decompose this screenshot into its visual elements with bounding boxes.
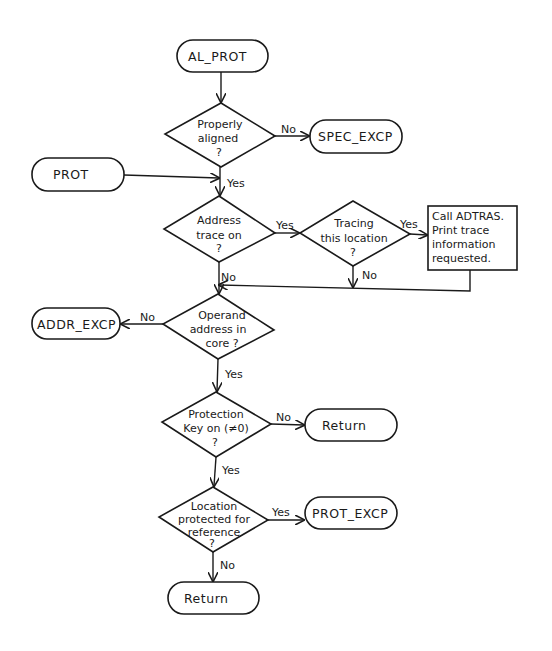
decision-line: ?	[216, 146, 222, 159]
edge-prot-traceon	[124, 175, 219, 178]
terminal-label: SPEC_EXCP	[318, 129, 393, 144]
decision-line: Tracing	[333, 217, 373, 230]
decision-line: Key on (≠0)	[183, 422, 248, 435]
process-line: Print trace	[432, 224, 489, 237]
edge-incore-keyon	[217, 359, 218, 391]
edge-label-traceon-no: No	[221, 271, 236, 284]
process-call-adtras: Call ADTRAS. Print trace information req…	[428, 206, 517, 270]
edge-keyon-protected	[214, 457, 216, 486]
edge-label-incore-no: No	[140, 311, 155, 324]
edge-label-traceon-yes: Yes	[275, 219, 294, 232]
edge-label-keyon-no: No	[276, 411, 291, 424]
edge-label-protected-no: No	[220, 559, 235, 572]
terminal-prot: PROT	[32, 158, 124, 191]
decision-line: address in	[190, 323, 247, 336]
edge-label-keyon-yes: Yes	[221, 464, 240, 477]
decision-line: Properly	[197, 118, 243, 131]
decision-line: trace on	[196, 229, 242, 242]
terminal-al-prot: AL_PROT	[177, 40, 268, 72]
edge-keyon-return	[271, 424, 304, 425]
decision-line: Protection	[188, 408, 244, 421]
edge-adtras-merge	[219, 270, 470, 291]
edge-label-tracingloc-no: No	[362, 269, 377, 282]
terminal-label: PROT_EXCP	[312, 506, 388, 521]
terminal-return-2: Return	[168, 582, 259, 614]
decision-line: ?	[216, 242, 222, 255]
terminal-return-1: Return	[305, 409, 397, 441]
process-line: requested.	[432, 252, 491, 265]
process-line: Call ADTRAS.	[432, 210, 504, 223]
edge-label-aligned-yes: Yes	[226, 177, 245, 190]
decision-properly-aligned: Properly aligned ?	[165, 103, 275, 167]
decision-line: ?	[212, 436, 218, 449]
decision-line: Location	[191, 500, 238, 513]
decision-location-protected: Location protected for reference ?	[159, 487, 268, 552]
decision-line: Address	[197, 214, 241, 227]
decision-address-trace-on: Address trace on ?	[164, 196, 275, 262]
edge-tracingloc-adtras	[410, 234, 427, 235]
terminal-label: PROT	[53, 167, 89, 182]
edge-label-protected-yes: Yes	[271, 506, 290, 519]
edge-label-aligned-no: No	[281, 123, 296, 136]
edge-label-tracingloc-yes: Yes	[399, 218, 418, 231]
edge-label-incore-yes: Yes	[224, 368, 243, 381]
decision-line: protected for	[178, 513, 250, 526]
terminal-prot-excp: PROT_EXCP	[305, 497, 397, 529]
terminal-label: ADDR_EXCP	[37, 317, 116, 332]
terminal-addr-excp: ADDR_EXCP	[32, 308, 120, 339]
flowchart: AL_PROT SPEC_EXCP PROT ADDR_EXCP Return …	[0, 0, 552, 651]
decision-tracing-this-location: Tracing this location ?	[300, 201, 410, 266]
decision-protection-key-on: Protection Key on (≠0) ?	[162, 392, 271, 457]
terminal-spec-excp: SPEC_EXCP	[310, 120, 402, 153]
terminal-label: Return	[322, 418, 366, 433]
process-line: information	[432, 238, 496, 251]
decision-operand-in-core: Operand address in core ?	[163, 294, 274, 359]
decision-line: ?	[209, 537, 215, 550]
decision-line: aligned	[198, 132, 239, 145]
terminal-label: AL_PROT	[188, 49, 247, 64]
terminal-label: Return	[184, 591, 228, 606]
decision-line: core ?	[205, 337, 238, 350]
decision-line: Operand	[198, 309, 246, 322]
decision-line: this location	[320, 232, 387, 245]
decision-line: ?	[350, 246, 356, 259]
